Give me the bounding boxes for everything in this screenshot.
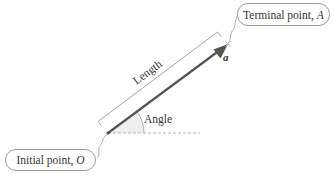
initial-point-label: Initial point, [16,154,73,166]
terminal-point-callout: Terminal point, A [237,3,330,26]
length-bracket [98,32,221,126]
terminal-point-label: Terminal point, [243,9,314,21]
angle-label: Angle [144,113,172,125]
initial-point-variable: O [76,154,84,166]
vector-name-label: a [223,51,229,63]
terminal-leader-line [228,15,238,43]
terminal-point-variable: A [317,9,324,21]
initial-point-callout: Initial point, O [5,149,96,171]
initial-leader-line [97,134,108,158]
terminal-point-mark [225,41,231,47]
